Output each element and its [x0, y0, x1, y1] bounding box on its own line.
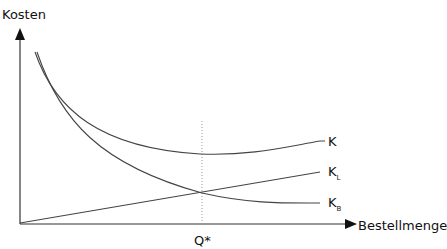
y-axis-arrow-icon: [15, 28, 25, 40]
x-axis-label: Bestellmenge: [358, 219, 447, 232]
series-k-curve: [35, 52, 320, 154]
series-kb-label-sub: B: [337, 205, 342, 213]
series-kl-line: [20, 172, 320, 223]
q-star-label: Q*: [194, 234, 211, 247]
series-kb-label-main: K: [328, 195, 337, 210]
series-kl-label: KL: [328, 165, 340, 182]
series-kb-label: KB: [328, 196, 341, 213]
y-axis-label: Kosten: [2, 8, 46, 21]
x-axis-arrow-icon: [345, 219, 357, 229]
series-kb-curve: [37, 52, 320, 203]
series-kl-label-main: K: [328, 164, 337, 179]
series-k-label: K: [328, 135, 337, 148]
series-kl-label-sub: L: [337, 174, 341, 182]
